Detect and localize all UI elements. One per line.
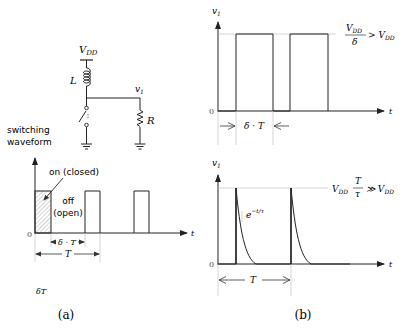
level-label: VDD δ > VDD <box>345 23 395 47</box>
bottom-plot: v1 t 0 e−t/τ VDD T τ ≫ VDD T <box>209 158 394 296</box>
origin-label: 0 <box>27 230 32 239</box>
waveform-axis-title-line1: switching <box>7 125 50 135</box>
level-rhs: > VDD <box>368 30 395 41</box>
off-label-line2: (open) <box>53 208 82 218</box>
x-axis-label: t <box>389 260 393 269</box>
x-axis-label: t <box>191 229 195 238</box>
off-label-line1: off <box>62 196 75 206</box>
pulse-width-label: δ · T <box>244 121 265 131</box>
top-plot: v1 t 0 VDD δ > VDD δ · T <box>209 6 395 145</box>
pulse-on-hatched <box>35 191 51 233</box>
period-label: T <box>250 275 257 285</box>
switch-symbol <box>79 106 88 127</box>
circuit-schematic: VDD L v1 R <box>69 44 155 149</box>
y-axis-label: v1 <box>212 158 221 169</box>
duty-cycle-note: δT <box>36 287 47 296</box>
spike-train <box>218 188 350 264</box>
level-numerator: T <box>355 176 362 186</box>
inductor-label: L <box>69 75 77 86</box>
decay-label: e−t/τ <box>246 207 265 220</box>
caption-a: (a) <box>58 308 75 322</box>
on-pointer-arrow <box>44 178 63 200</box>
pulse <box>134 191 149 233</box>
ground-symbol <box>81 144 92 149</box>
vdd-label: VDD <box>79 44 98 57</box>
period-label: T <box>65 249 72 259</box>
resistor-symbol <box>137 110 143 127</box>
level-label: VDD T τ ≫ VDD <box>332 176 394 199</box>
x-axis-label: t <box>389 107 393 116</box>
delta-t-label: δ · T <box>58 238 76 247</box>
figure: VDD L v1 R <box>0 0 406 329</box>
origin-label: 0 <box>209 107 214 116</box>
level-rhs: ≫ VDD <box>366 184 394 195</box>
level-lhs: VDD <box>332 184 348 195</box>
pulse-train <box>218 34 328 111</box>
level-numerator: VDD <box>346 23 362 34</box>
waveform-axis-title-line2: waveform <box>7 137 52 147</box>
switching-waveform-plot: switching waveform t 0 on (closed) off (… <box>7 125 195 296</box>
caption-b: (b) <box>294 308 311 322</box>
origin-label: 0 <box>209 260 214 269</box>
inductor-symbol <box>84 68 91 86</box>
ground-symbol <box>135 144 146 149</box>
pulse <box>85 191 100 233</box>
level-denominator: δ <box>352 37 357 47</box>
node-v1-label: v1 <box>135 84 144 95</box>
resistor-label: R <box>146 115 155 126</box>
on-closed-label: on (closed) <box>49 167 99 177</box>
level-denominator: τ <box>355 189 361 199</box>
y-axis-label: v1 <box>212 6 221 17</box>
